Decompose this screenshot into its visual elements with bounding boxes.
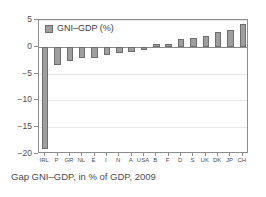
bar (128, 47, 134, 52)
x-tick-label: N (116, 157, 120, 163)
x-tick-label: B (153, 157, 157, 163)
x-tick-label: A (129, 157, 133, 163)
plot-area (38, 19, 248, 153)
x-tick-label: USA (137, 157, 149, 163)
x-tick-mark (94, 153, 95, 156)
bar (178, 39, 184, 47)
x-tick-mark (106, 153, 107, 156)
chart-figure: 50−5−10−15−20 IRLPGRNLEINAUSABFDSUKDKJPC… (0, 0, 266, 197)
x-tick-label: D (178, 157, 182, 163)
x-tick-mark (44, 153, 45, 156)
y-tick-mark (34, 153, 38, 154)
x-tick-mark (131, 153, 132, 156)
y-tick-label: −5 (6, 69, 32, 78)
bar (54, 47, 60, 65)
bar (227, 30, 233, 47)
y-tick-label: −20 (6, 149, 32, 158)
x-tick-mark (118, 153, 119, 156)
x-tick-mark (155, 153, 156, 156)
x-tick-label: JP (226, 157, 233, 163)
bar (42, 47, 48, 149)
chart-caption: Gap GNI–GDP, in % of GDP, 2009 (11, 172, 156, 182)
x-tick-label: GR (64, 157, 73, 163)
x-tick-mark (81, 153, 82, 156)
y-tick-label: −15 (6, 122, 32, 131)
legend: GNI–GDP (%) (45, 24, 114, 33)
x-tick-label: UK (201, 157, 209, 163)
x-tick-mark (143, 153, 144, 156)
bar (153, 44, 159, 47)
legend-swatch-icon (45, 25, 53, 33)
x-tick-mark (229, 153, 230, 156)
bar (67, 47, 73, 61)
x-tick-label: CH (237, 157, 246, 163)
x-tick-label: S (190, 157, 194, 163)
bar (165, 44, 171, 47)
bar (116, 47, 122, 53)
bar (190, 38, 196, 47)
x-tick-mark (57, 153, 58, 156)
bar (79, 47, 85, 58)
x-tick-mark (205, 153, 206, 156)
legend-label: GNI–GDP (%) (57, 24, 114, 33)
bar-series (39, 20, 247, 152)
bar (240, 24, 246, 47)
x-tick-label: E (92, 157, 96, 163)
y-tick-label: 0 (6, 42, 32, 51)
bar (215, 32, 221, 47)
x-tick-mark (242, 153, 243, 156)
x-tick-mark (192, 153, 193, 156)
x-tick-label: IRL (40, 157, 49, 163)
x-tick-label: F (166, 157, 170, 163)
bar (141, 47, 147, 50)
bar (203, 36, 209, 47)
x-tick-mark (69, 153, 70, 156)
x-tick-mark (180, 153, 181, 156)
x-tick-label: NL (77, 157, 85, 163)
x-tick-mark (168, 153, 169, 156)
x-tick-label: P (55, 157, 59, 163)
bar (91, 47, 97, 58)
x-tick-mark (217, 153, 218, 156)
bar (104, 47, 110, 56)
y-tick-label: 5 (6, 15, 32, 24)
y-tick-label: −10 (6, 95, 32, 104)
x-tick-label: I (105, 157, 107, 163)
x-tick-label: DK (213, 157, 221, 163)
